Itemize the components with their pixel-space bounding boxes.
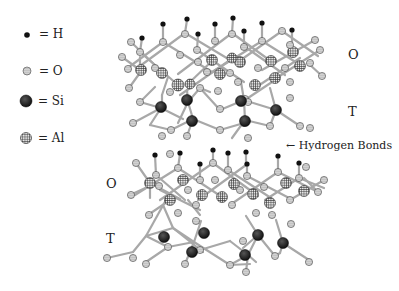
hydrogen-bonds-annotation: ← Hydrogen Bonds [286,139,392,152]
legend-label-oxygen: = O [39,64,63,78]
upper-octahedral-label: O [348,47,359,62]
legend-label-hydrogen: = H [39,27,63,41]
legend-item-silicon: = Si [18,93,64,109]
lower-octahedral-label: O [106,176,117,191]
aluminum-atom-icon [18,130,34,146]
legend-item-oxygen: = O [19,63,63,79]
lower-sheet-bonds [107,150,324,272]
legend-label-silicon: = Si [38,94,64,108]
hydrogen-atom-icon [19,26,35,42]
hydrogen-bonds-label: Hydrogen Bonds [299,139,392,152]
legend-item-hydrogen: = H [19,26,63,42]
silicon-atom-icon [18,93,34,109]
upper-tetrahedral-label: T [348,104,357,119]
lower-tetrahedral-label: T [106,231,115,246]
left-arrow-icon: ← [286,139,295,152]
legend-item-aluminum: = Al [18,130,64,146]
oxygen-atom-icon [19,63,35,79]
legend-label-aluminum: = Al [38,131,64,145]
